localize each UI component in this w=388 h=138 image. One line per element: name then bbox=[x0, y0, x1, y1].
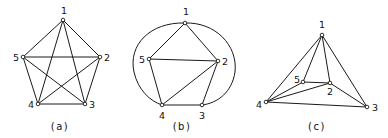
vertex-label-a-2: 2 bbox=[104, 52, 110, 63]
graph-diagram-canvas: 12345(a) 12345(b) 12345(c) bbox=[0, 0, 388, 138]
edge-a-1-4 bbox=[38, 20, 63, 104]
edge-c-4-2 bbox=[266, 83, 330, 102]
edge-a-1-2 bbox=[63, 20, 100, 57]
caption-c: (c) bbox=[308, 121, 326, 132]
vertex-c-3 bbox=[365, 105, 369, 109]
vertex-label-c-4: 4 bbox=[256, 99, 262, 110]
edge-b-1-2 bbox=[185, 23, 218, 61]
vertex-label-b-4: 4 bbox=[159, 110, 165, 121]
vertex-label-c-5: 5 bbox=[294, 74, 300, 85]
graph-c: 12345(c) bbox=[256, 19, 378, 132]
vertex-label-a-3: 3 bbox=[89, 99, 95, 110]
vertex-b-2 bbox=[216, 59, 220, 63]
vertex-a-1 bbox=[61, 18, 65, 22]
edge-c-1-4 bbox=[266, 35, 322, 102]
edge-c-2-3 bbox=[330, 83, 367, 107]
vertex-label-c-2: 2 bbox=[327, 86, 333, 97]
edge-a-4-5 bbox=[23, 57, 38, 104]
vertex-b-3 bbox=[200, 103, 204, 107]
edge-b-1-5 bbox=[149, 23, 185, 59]
vertex-label-a-4: 4 bbox=[28, 99, 34, 110]
vertex-label-c-3: 3 bbox=[372, 102, 378, 113]
vertex-b-4 bbox=[160, 103, 164, 107]
graph-a: 12345(a) bbox=[13, 5, 110, 132]
vertex-b-5 bbox=[147, 57, 151, 61]
edge-b-5-4 bbox=[149, 59, 162, 105]
vertex-a-4 bbox=[36, 102, 40, 106]
edge-b-5-2 bbox=[149, 59, 218, 61]
vertex-label-b-2: 2 bbox=[222, 56, 228, 67]
edge-c-4-3 bbox=[266, 102, 367, 107]
vertex-c-1 bbox=[320, 33, 324, 37]
vertex-label-b-5: 5 bbox=[139, 54, 145, 65]
caption-b: (b) bbox=[173, 121, 192, 132]
edge-a-1-3 bbox=[63, 20, 85, 104]
vertex-c-2 bbox=[328, 81, 332, 85]
vertex-a-2 bbox=[98, 55, 102, 59]
vertex-b-1 bbox=[183, 21, 187, 25]
vertex-label-a-5: 5 bbox=[13, 52, 19, 63]
edge-a-2-4 bbox=[38, 57, 100, 104]
vertex-a-5 bbox=[21, 55, 25, 59]
edge-c-1-5 bbox=[303, 35, 322, 82]
edge-a-2-3 bbox=[85, 57, 100, 104]
vertex-label-a-1: 1 bbox=[61, 5, 67, 16]
caption-a: (a) bbox=[51, 121, 69, 132]
vertex-label-b-1: 1 bbox=[183, 6, 189, 17]
edge-c-4-5 bbox=[266, 82, 303, 102]
vertex-label-c-1: 1 bbox=[319, 19, 325, 30]
edge-c-5-2 bbox=[303, 82, 330, 83]
vertex-label-b-3: 3 bbox=[199, 110, 205, 121]
graph-b: 12345(b) bbox=[133, 6, 235, 132]
vertex-c-4 bbox=[264, 100, 268, 104]
vertex-a-3 bbox=[83, 102, 87, 106]
edge-a-3-5 bbox=[23, 57, 85, 104]
vertex-c-5 bbox=[301, 80, 305, 84]
